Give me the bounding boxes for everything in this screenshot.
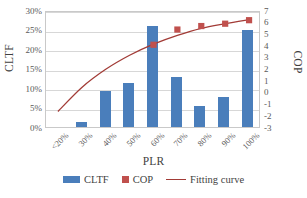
y-axis-right-tick-label: -3	[264, 124, 272, 133]
cop-marker	[174, 26, 180, 32]
y-axis-right-title: COP	[292, 41, 304, 83]
y-axis-left-tick-label: 25%	[26, 26, 43, 35]
cop-marker	[198, 23, 204, 29]
y-axis-right-tick-label: 6	[264, 18, 269, 27]
y-axis-left-tick-label: 15%	[26, 65, 43, 74]
y-axis-right-ticks: -3-2-101234567	[262, 11, 280, 128]
y-axis-right-tick-label: 2	[264, 65, 269, 74]
bar-swatch-icon	[63, 176, 80, 183]
y-axis-right-tick-label: 5	[264, 30, 269, 39]
fitting-curve-line	[58, 20, 249, 112]
y-axis-left-title: CLTF	[3, 38, 15, 78]
cop-marker	[246, 17, 252, 23]
plot-area	[45, 11, 260, 128]
y-axis-left-tick-label: 20%	[26, 46, 43, 55]
y-axis-right-tick-label: 1	[264, 77, 269, 86]
y-axis-right-tick-label: 0	[264, 88, 269, 97]
legend-item-label: COP	[133, 174, 153, 185]
line-and-marker-overlay	[46, 12, 261, 129]
y-axis-right-tick-label: -1	[264, 100, 272, 109]
x-axis-ticks: <20%30%40%50%60%70%80%90%100%	[45, 129, 260, 155]
y-axis-right-tick-label: -2	[264, 112, 272, 121]
chart-legend: CLTFCOPFitting curve	[0, 174, 307, 185]
cop-marker	[222, 21, 228, 27]
square-marker-icon	[122, 176, 129, 183]
y-axis-left-tick-label: 5%	[30, 104, 42, 113]
legend-item-label: CLTF	[84, 174, 109, 185]
y-axis-left-tick-label: 30%	[26, 7, 43, 16]
x-axis-title: PLR	[0, 155, 307, 167]
y-axis-left-tick-label: 0%	[30, 124, 42, 133]
chart-container: CLTF COP 0%5%10%15%20%25%30% -3-2-101234…	[0, 0, 307, 198]
y-axis-right-tick-label: 7	[264, 7, 269, 16]
y-axis-right-tick-label: 3	[264, 53, 269, 62]
y-axis-left-ticks: 0%5%10%15%20%25%30%	[17, 11, 43, 128]
y-axis-right-tick-label: 4	[264, 42, 269, 51]
y-axis-left-tick-label: 10%	[26, 85, 43, 94]
legend-item[interactable]: COP	[122, 174, 153, 185]
cop-marker	[150, 42, 156, 48]
legend-item[interactable]: CLTF	[63, 174, 109, 185]
line-swatch-icon	[166, 179, 186, 180]
legend-item[interactable]: Fitting curve	[166, 174, 244, 185]
legend-item-label: Fitting curve	[190, 174, 244, 185]
